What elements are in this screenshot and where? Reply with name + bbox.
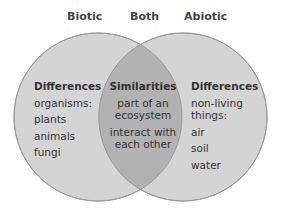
- left-item: animals: [34, 130, 101, 143]
- left-item: fungi: [34, 146, 101, 159]
- middle-section: Similarities part of an ecosystem intera…: [106, 80, 180, 151]
- header-both: Both: [130, 10, 159, 23]
- right-item: non-living things:: [191, 97, 261, 122]
- right-section: Differences non-living things: air soil …: [191, 80, 261, 172]
- right-item: water: [191, 159, 261, 172]
- middle-title: Similarities: [106, 80, 180, 93]
- left-item: organisms:: [34, 97, 101, 110]
- header-abiotic: Abiotic: [184, 10, 227, 23]
- right-item: air: [191, 126, 261, 139]
- left-item: plants: [34, 113, 101, 126]
- right-title: Differences: [191, 80, 261, 93]
- middle-item: interact with each other: [106, 126, 180, 151]
- right-item: soil: [191, 142, 261, 155]
- middle-item: part of an ecosystem: [106, 97, 180, 122]
- left-title: Differences: [34, 80, 101, 93]
- left-section: Differences organisms: plants animals fu…: [34, 80, 101, 159]
- header-biotic: Biotic: [67, 10, 102, 23]
